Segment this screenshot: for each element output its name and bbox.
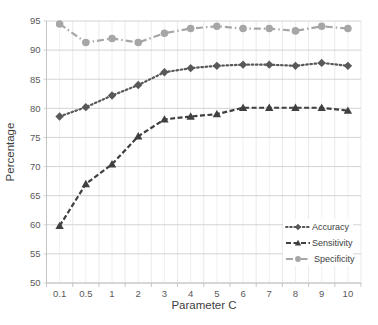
y-tick-label: 50 bbox=[30, 277, 41, 288]
diamond-marker bbox=[55, 112, 63, 120]
diamond-marker bbox=[186, 64, 194, 72]
x-tick-label: 0.1 bbox=[53, 288, 66, 299]
x-tick-label: 8 bbox=[293, 288, 298, 299]
circle-marker bbox=[265, 25, 273, 33]
x-tick-label: 9 bbox=[319, 288, 324, 299]
circle-marker bbox=[161, 29, 169, 37]
circle-marker bbox=[318, 22, 326, 30]
x-tick-label: 2 bbox=[136, 288, 141, 299]
circle-marker bbox=[344, 25, 352, 33]
y-tick-label: 85 bbox=[30, 74, 41, 85]
x-tick-label: 3 bbox=[162, 288, 167, 299]
x-axis-title: Parameter C bbox=[171, 299, 236, 311]
x-tick-label: 4 bbox=[188, 288, 193, 299]
y-tick-label: 60 bbox=[30, 219, 41, 230]
legend-label-specificity: Specificity bbox=[314, 254, 355, 264]
x-tick-label: 1 bbox=[109, 288, 114, 299]
diamond-marker bbox=[108, 91, 116, 99]
y-axis: 50556065707580859095 bbox=[30, 15, 47, 288]
circle-marker bbox=[187, 25, 195, 33]
line-chart: 50556065707580859095 0.10.512345678910 P… bbox=[0, 0, 378, 325]
x-axis: 0.10.512345678910 bbox=[47, 283, 362, 299]
diamond-marker bbox=[160, 68, 168, 76]
circle-marker bbox=[295, 256, 301, 262]
x-tick-label: 5 bbox=[214, 288, 219, 299]
legend-label-sensitivity: Sensitivity bbox=[312, 238, 353, 248]
circle-marker bbox=[56, 20, 64, 28]
y-tick-label: 90 bbox=[30, 44, 41, 55]
chart-canvas: 50556065707580859095 0.10.512345678910 P… bbox=[0, 0, 378, 325]
circle-marker bbox=[239, 25, 247, 33]
diamond-marker bbox=[134, 81, 142, 89]
diamond-marker bbox=[317, 59, 325, 67]
y-axis-title: Percentage bbox=[4, 123, 16, 182]
y-tick-label: 80 bbox=[30, 103, 41, 114]
circle-marker bbox=[213, 22, 221, 30]
y-tick-label: 55 bbox=[30, 248, 41, 259]
y-tick-label: 70 bbox=[30, 161, 41, 172]
circle-marker bbox=[134, 39, 142, 47]
diamond-marker bbox=[239, 60, 247, 68]
triangle-marker bbox=[317, 104, 325, 111]
circle-marker bbox=[82, 39, 90, 47]
x-tick-label: 6 bbox=[240, 288, 245, 299]
x-tick-label: 10 bbox=[343, 288, 354, 299]
circle-marker bbox=[108, 35, 116, 43]
x-tick-label: 7 bbox=[267, 288, 272, 299]
circle-marker bbox=[292, 27, 300, 35]
diamond-marker bbox=[213, 62, 221, 70]
legend-label-accuracy: Accuracy bbox=[312, 222, 350, 232]
diamond-marker bbox=[82, 103, 90, 111]
diamond-marker bbox=[344, 62, 352, 70]
diamond-marker bbox=[265, 60, 273, 68]
legend: Accuracy Sensitivity Specificity bbox=[283, 219, 355, 266]
y-tick-label: 65 bbox=[30, 190, 41, 201]
x-tick-label: 0.5 bbox=[79, 288, 92, 299]
triangle-marker bbox=[265, 104, 273, 111]
y-tick-label: 75 bbox=[30, 132, 41, 143]
diamond-marker bbox=[291, 62, 299, 70]
y-tick-label: 95 bbox=[30, 15, 41, 26]
